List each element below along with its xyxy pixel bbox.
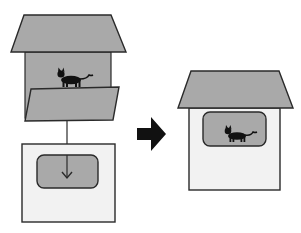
left-house	[11, 15, 126, 121]
right-roof	[178, 71, 293, 108]
front-panel	[25, 87, 119, 121]
diagram-canvas	[0, 0, 301, 233]
lower-box	[22, 144, 115, 222]
right-window	[203, 112, 266, 146]
left-roof	[11, 15, 126, 52]
right-house	[178, 71, 293, 190]
right-arrow-icon	[137, 117, 166, 151]
